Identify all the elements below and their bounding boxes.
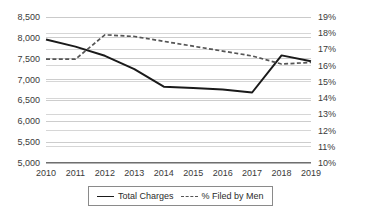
- legend-item[interactable]: Total Charges: [97, 192, 174, 201]
- legend-item-label: % Filed by Men: [202, 192, 264, 201]
- chart-container: 5,0005,5006,0006,5007,0007,5008,0008,500…: [0, 0, 372, 222]
- gridlines: [46, 17, 311, 163]
- legend-item-label: Total Charges: [118, 192, 174, 201]
- legend-item[interactable]: % Filed by Men: [181, 192, 264, 201]
- chart-legend: Total Charges% Filed by Men: [88, 186, 273, 206]
- legend-swatch-solid-line-icon: [97, 196, 114, 197]
- series-lines: [46, 35, 311, 93]
- legend-swatch-dashed-line-icon: [181, 196, 198, 197]
